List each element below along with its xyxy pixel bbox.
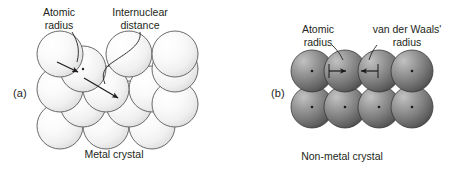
label-atomic-radius-nonmetal-line2: radius <box>290 36 346 49</box>
metal-sphere-row-2 <box>37 66 198 127</box>
panel-nonmetal-crystal: (b) Atomic radius van der Waals' radius … <box>228 0 456 174</box>
label-atomic-radius-metal-line2: radius <box>31 19 87 32</box>
caption-metal-crystal: Metal crystal <box>0 148 228 160</box>
nonmetal-molecule-row-2 <box>291 86 433 128</box>
panel-metal-crystal: (a) Atomic radius Internuclear distance … <box>0 0 228 174</box>
metal-sphere-row-2b <box>60 81 152 127</box>
internuclear-distance-leader-line <box>103 32 140 84</box>
label-internuclear-distance-line2: distance <box>100 19 180 32</box>
label-vdw-radius-line2: radius <box>368 36 446 49</box>
internuclear-distance-arrow <box>84 78 118 98</box>
metal-sphere-row-3 <box>37 103 175 149</box>
metal-sphere-row-1 <box>37 31 198 77</box>
metal-sphere-row-1b <box>60 46 198 92</box>
figure-atomic-radii: (a) Atomic radius Internuclear distance … <box>0 0 456 174</box>
label-atomic-radius-nonmetal: Atomic radius <box>290 23 346 48</box>
metal-nucleus-dot <box>82 68 84 70</box>
label-atomic-radius-metal: Atomic radius <box>31 6 87 31</box>
nonmetal-molecule-row-1 <box>291 50 433 92</box>
label-vdw-radius-line1: van der Waals' <box>368 23 446 36</box>
panel-letter-a: (a) <box>13 87 27 99</box>
atomic-radius-leader-line-a <box>72 32 78 62</box>
label-vdw-radius: van der Waals' radius <box>368 23 446 48</box>
label-internuclear-distance: Internuclear distance <box>100 6 180 31</box>
label-internuclear-distance-line1: Internuclear <box>100 6 180 19</box>
label-atomic-radius-nonmetal-line1: Atomic <box>290 23 346 36</box>
label-atomic-radius-metal-line1: Atomic <box>31 6 87 19</box>
caption-nonmetal-crystal: Non-metal crystal <box>228 150 456 162</box>
panel-letter-b: (b) <box>271 87 285 99</box>
atomic-radius-arrow-a <box>57 62 78 72</box>
